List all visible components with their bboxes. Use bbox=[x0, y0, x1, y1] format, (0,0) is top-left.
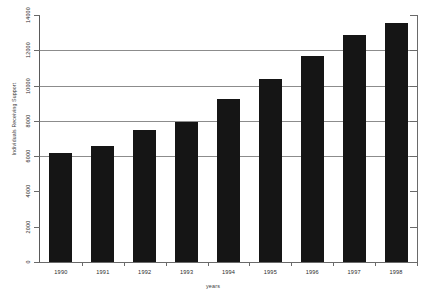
y-tick-label: 14000 bbox=[25, 0, 31, 35]
y-tick-label: 8000 bbox=[25, 101, 31, 141]
bar bbox=[49, 153, 72, 262]
y-tick-mark bbox=[34, 121, 40, 122]
y-tick-label: 12000 bbox=[25, 30, 31, 70]
bar bbox=[133, 130, 156, 262]
y-axis-title: Individuals Receiving Support bbox=[11, 59, 17, 179]
x-tick-label: 1995 bbox=[249, 269, 291, 275]
x-tick-mark bbox=[417, 262, 418, 266]
y-tick-mark-right bbox=[410, 191, 417, 192]
x-tick-mark bbox=[208, 262, 209, 266]
x-tick-label: 1994 bbox=[208, 269, 250, 275]
x-tick-label: 1997 bbox=[333, 269, 375, 275]
y-tick-mark bbox=[34, 15, 40, 16]
y-tick-mark-right bbox=[410, 262, 417, 263]
y-tick-label: 0 bbox=[25, 242, 31, 282]
x-tick-mark bbox=[375, 262, 376, 266]
x-tick-label: 1990 bbox=[40, 269, 82, 275]
y-tick-label: 10000 bbox=[25, 66, 31, 106]
y-tick-mark-right bbox=[410, 50, 417, 51]
y-tick-mark-right bbox=[410, 227, 417, 228]
y-tick-mark bbox=[34, 156, 40, 157]
y-tick-mark bbox=[34, 227, 40, 228]
x-tick-label: 1991 bbox=[82, 269, 124, 275]
y-tick-label: 6000 bbox=[25, 136, 31, 176]
x-tick-label: 1996 bbox=[291, 269, 333, 275]
x-tick-label: 1993 bbox=[166, 269, 208, 275]
bar bbox=[91, 146, 114, 262]
secondary-y-axis-line bbox=[417, 15, 418, 263]
x-tick-mark bbox=[249, 262, 250, 266]
y-tick-label: 2000 bbox=[25, 207, 31, 247]
x-axis-title: years bbox=[0, 283, 426, 289]
x-tick-mark bbox=[333, 262, 334, 266]
y-tick-mark bbox=[34, 50, 40, 51]
bar-chart: Individuals Receiving Support 0200040006… bbox=[0, 0, 426, 299]
y-tick-label: 4000 bbox=[25, 171, 31, 211]
bar bbox=[301, 56, 324, 262]
bar bbox=[175, 122, 198, 262]
y-tick-mark-right bbox=[410, 156, 417, 157]
y-tick-mark-right bbox=[410, 121, 417, 122]
bar bbox=[217, 99, 240, 262]
y-tick-mark bbox=[34, 191, 40, 192]
x-tick-mark bbox=[124, 262, 125, 266]
bar bbox=[343, 35, 366, 262]
bar bbox=[259, 79, 282, 262]
y-tick-mark-right bbox=[410, 86, 417, 87]
x-tick-mark bbox=[166, 262, 167, 266]
x-axis-line bbox=[39, 262, 418, 263]
y-tick-mark-right bbox=[410, 15, 417, 16]
bar bbox=[385, 23, 408, 262]
x-tick-mark bbox=[82, 262, 83, 266]
x-tick-label: 1998 bbox=[375, 269, 417, 275]
y-tick-mark bbox=[34, 262, 40, 263]
x-tick-label: 1992 bbox=[124, 269, 166, 275]
y-tick-mark bbox=[34, 86, 40, 87]
x-tick-mark bbox=[291, 262, 292, 266]
